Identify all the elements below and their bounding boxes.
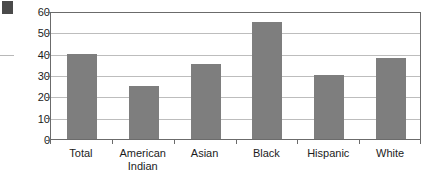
gridline xyxy=(51,76,420,77)
gridline xyxy=(51,55,420,56)
bar xyxy=(191,64,221,139)
y-axis-tick-label: 60 xyxy=(6,7,50,18)
y-axis-tick-label: 40 xyxy=(6,49,50,60)
x-axis: TotalAmerican IndianAsianBlackHispanicWh… xyxy=(50,140,421,184)
bar xyxy=(67,54,97,139)
y-axis: 0102030405060 xyxy=(0,12,50,140)
gridline xyxy=(51,97,420,98)
x-axis-category-label: Total xyxy=(50,147,112,160)
x-axis-tick-mark xyxy=(236,140,237,144)
x-axis-category-label: Black xyxy=(236,147,298,160)
y-axis-tick-label: 50 xyxy=(6,28,50,39)
gridline xyxy=(51,119,420,120)
x-axis-category-label: American Indian xyxy=(112,147,174,173)
y-axis-tick-label: 10 xyxy=(6,113,50,124)
y-axis-tick-label: 30 xyxy=(6,71,50,82)
gridline xyxy=(51,33,420,34)
x-axis-tick-mark xyxy=(420,140,421,144)
bar xyxy=(252,22,282,139)
x-axis-category-label: Hispanic xyxy=(297,147,359,160)
y-axis-tick-label: 0 xyxy=(6,135,50,146)
x-axis-tick-mark xyxy=(50,140,51,144)
x-axis-tick-mark xyxy=(297,140,298,144)
x-axis-tick-mark xyxy=(359,140,360,144)
x-axis-category-label: Asian xyxy=(174,147,236,160)
plot-area xyxy=(50,12,421,140)
bar xyxy=(376,58,406,139)
x-axis-tick-mark xyxy=(112,140,113,144)
chart-screenshot: 0102030405060 TotalAmerican IndianAsianB… xyxy=(0,0,443,184)
x-axis-category-label: White xyxy=(359,147,421,160)
bar xyxy=(129,86,159,139)
bar xyxy=(314,75,344,139)
x-axis-tick-mark xyxy=(174,140,175,144)
y-axis-tick-label: 20 xyxy=(6,92,50,103)
